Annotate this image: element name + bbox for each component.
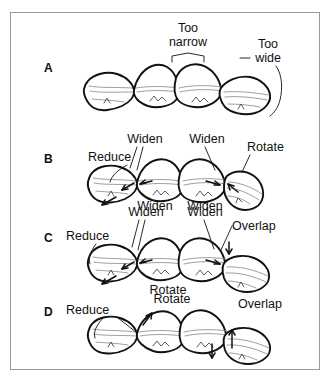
panel-c-label-widen-top-right: Widen <box>187 205 222 219</box>
panel-b-label-widen-top-left: Widen <box>127 132 162 146</box>
panel-b-label-rotate: Rotate <box>247 140 284 154</box>
panel-a-label-too-narrow-line2: narrow <box>169 35 208 49</box>
panel-c-leader-overlap <box>221 226 232 250</box>
panel-a-letter: A <box>44 61 53 75</box>
panel-a: A <box>44 21 282 116</box>
panel-b-leader-rotate <box>242 155 250 172</box>
panel-d: D <box>44 292 282 364</box>
panel-d-tooth-2 <box>137 311 184 352</box>
panel-a-bracket-too-wide <box>270 66 282 116</box>
panel-c-letter: C <box>44 231 53 245</box>
panel-c-tooth-3 <box>179 238 227 281</box>
panel-c-label-reduce: Reduce <box>66 229 109 243</box>
panel-b-tooth-4 <box>224 172 263 210</box>
panel-c: C <box>44 205 276 297</box>
panel-a-tooth-4 <box>220 77 271 115</box>
panel-d-tooth-3 <box>180 310 228 353</box>
panel-a-tooth-2 <box>134 65 179 107</box>
panel-b-tooth-1 <box>88 166 137 203</box>
panel-b-leader-widen-left-2 <box>137 147 143 170</box>
panel-c-label-overlap: Overlap <box>232 219 276 233</box>
panel-a-tooth-1 <box>84 73 134 110</box>
panel-b-label-reduce: Reduce <box>88 150 131 164</box>
panel-c-tooth-1 <box>88 245 137 282</box>
panel-b-label-widen-top-right: Widen <box>189 132 224 146</box>
panel-d-label-overlap: Overlap <box>238 297 282 311</box>
panel-a-tooth-3 <box>175 64 223 107</box>
panel-d-letter: D <box>44 305 53 319</box>
panel-d-tooth-1 <box>88 317 137 354</box>
panel-a-bracket-too-narrow <box>172 53 204 62</box>
panel-c-tooth-4 <box>223 256 270 292</box>
panel-b-tooth-3 <box>179 159 227 202</box>
panel-d-label-reduce: Reduce <box>66 303 109 317</box>
panel-a-label-too-wide-line1: Too <box>258 37 278 51</box>
panel-a-label-too-wide-line2: wide <box>254 51 281 65</box>
panel-d-label-rotate: Rotate <box>154 292 191 306</box>
figure-artwork: A <box>0 0 332 382</box>
panel-b-letter: B <box>44 152 53 166</box>
panel-c-leader-widen-left <box>132 220 139 247</box>
figure-container: A <box>0 0 332 382</box>
panel-a-label-too-narrow-line1: Too <box>178 21 198 35</box>
panel-b: B <box>44 132 284 213</box>
panel-c-label-widen-top-left: Widen <box>128 205 163 219</box>
